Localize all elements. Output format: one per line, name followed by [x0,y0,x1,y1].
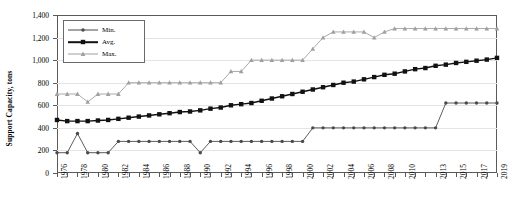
x-tick-mark [313,173,314,177]
y-tick-label: 400 [5,123,49,132]
data-point [116,117,120,121]
data-point [117,140,120,143]
legend-item-avg[interactable]: Avg. [68,36,140,48]
data-point [352,126,355,129]
chart-legend: Min.Avg.Max. [63,20,145,63]
data-point [495,56,499,60]
data-point [219,140,222,143]
data-point [55,151,58,154]
x-tick-mark [436,173,437,177]
y-tick-label: 200 [5,146,49,155]
data-point [158,140,161,143]
x-tick-mark [333,173,334,177]
y-tick-label: 600 [5,101,49,110]
data-point [239,102,243,106]
data-point [495,101,498,104]
data-point [168,140,171,143]
x-tick-mark [446,173,447,177]
x-tick-mark [395,173,396,177]
data-point [86,151,89,154]
x-tick-mark [282,173,283,177]
data-point [137,114,141,118]
x-tick-mark [241,173,242,177]
data-point [280,94,284,98]
x-tick-mark [190,173,191,177]
data-point [342,126,345,129]
data-point [311,87,315,91]
legend-swatch [68,49,98,59]
legend-label: Max. [102,50,117,58]
y-tick-label: 1,200 [5,33,49,42]
data-point [259,99,263,103]
data-point [332,126,335,129]
x-tick-mark [251,173,252,177]
legend-swatch [68,25,98,35]
series-min [55,101,498,154]
data-point [147,140,150,143]
x-tick-mark [129,173,130,177]
data-point [270,96,274,100]
data-point [106,151,109,154]
x-tick-mark [272,173,273,177]
data-point [321,85,325,89]
data-point [341,81,345,85]
legend-item-max[interactable]: Max. [68,48,140,60]
legend-swatch [68,37,98,47]
x-tick-mark [405,173,406,177]
data-point [270,140,273,143]
data-point [178,110,182,114]
data-point [465,101,468,104]
x-tick-mark [323,173,324,177]
data-point [321,126,324,129]
data-point [433,64,437,68]
x-tick-mark [487,173,488,177]
x-tick-mark [364,173,365,177]
data-point [229,103,233,107]
data-point [157,112,161,116]
data-point [454,61,458,65]
data-point [331,83,335,87]
data-point [229,140,232,143]
data-point [383,126,386,129]
data-point [434,126,437,129]
x-tick-mark [425,173,426,177]
legend-item-min[interactable]: Min. [68,24,140,36]
data-point [239,140,242,143]
x-tick-mark [67,173,68,177]
data-point [403,126,406,129]
chart-figure: Support Capacity, tons 02004006008001,00… [0,0,513,216]
x-tick-mark [210,173,211,177]
data-point [199,151,202,154]
y-tick-label: 1,000 [5,56,49,65]
x-tick-mark [77,173,78,177]
x-tick-mark [354,173,355,177]
x-tick-mark [456,173,457,177]
data-point [311,126,314,129]
data-point [413,67,417,71]
data-point [392,71,396,75]
x-tick-mark [292,173,293,177]
x-tick-mark [88,173,89,177]
data-point [75,119,79,123]
series-avg [55,56,499,124]
data-point [372,35,377,39]
legend-label: Min. [102,26,115,34]
x-tick-mark [170,173,171,177]
x-tick-mark [118,173,119,177]
data-point [188,109,192,113]
y-tick-label: 800 [5,78,49,87]
data-point [301,140,304,143]
x-tick-mark [159,173,160,177]
x-tick-mark [200,173,201,177]
data-point [291,140,294,143]
data-point [66,151,69,154]
data-point [485,101,488,104]
data-point [198,108,202,112]
legend-label: Avg. [102,38,115,46]
data-point [362,77,366,81]
data-point [403,69,407,73]
data-point [188,140,191,143]
data-point [209,140,212,143]
data-point [444,101,447,104]
data-point [393,126,396,129]
